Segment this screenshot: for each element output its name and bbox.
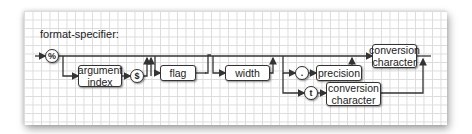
dot-terminal: . <box>295 66 309 80</box>
conversion-character-top-box: conversion character <box>372 44 417 68</box>
conversion-character-bottom-box: conversion character <box>326 82 381 106</box>
t-terminal: t <box>304 86 318 100</box>
dollar-terminal: $ <box>130 69 144 83</box>
precision-box: precision <box>316 65 362 81</box>
width-box: width <box>225 65 270 81</box>
flag-box: flag <box>160 65 196 81</box>
argument-index-box: argument index <box>78 65 122 87</box>
percent-terminal: % <box>45 49 59 63</box>
